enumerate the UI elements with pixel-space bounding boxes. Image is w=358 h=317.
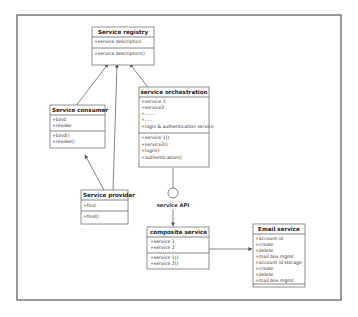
class-title: Service consumer xyxy=(52,107,108,113)
attribute: +mail box mgmt xyxy=(255,254,294,259)
attribute: +....... xyxy=(141,111,155,116)
class-service-provider: Service provider +find +find() xyxy=(81,190,135,224)
class-composite-service: composite service +service 1 +service 2 … xyxy=(147,227,209,269)
attribute: +bind xyxy=(52,117,66,122)
class-title: Service registry xyxy=(98,29,148,36)
uml-diagram-canvas: service API Service registry +service de… xyxy=(0,0,358,317)
attribute: +find xyxy=(83,203,96,208)
operation: +bind() xyxy=(52,133,70,138)
attribute: +revoke xyxy=(52,123,71,128)
operation: +service 2() xyxy=(150,261,178,266)
class-title: composite service xyxy=(150,229,207,236)
operation: +service 1() xyxy=(141,135,169,140)
attribute: +delete xyxy=(255,248,273,253)
class-title: Service provider xyxy=(83,192,135,199)
class-service-orchestration: service orchestration +service 1 +servic… xyxy=(139,87,214,167)
operation: +login() xyxy=(141,148,160,153)
attribute: +create xyxy=(255,266,274,271)
class-title: Email service xyxy=(258,226,300,232)
class-service-consumer: Service consumer +bind +revoke +bind() +… xyxy=(50,105,108,148)
interface-lollipop-icon xyxy=(168,188,178,198)
attribute: +mail box mgmt xyxy=(255,278,294,283)
operation: +service2() xyxy=(141,142,168,147)
attribute: +..... xyxy=(141,117,152,122)
attribute: +login & authentication service xyxy=(141,124,214,129)
operation: +service 1() xyxy=(150,255,178,260)
class-title: service orchestration xyxy=(140,89,207,95)
attribute: +service 1 xyxy=(141,99,166,104)
attribute: +delete xyxy=(255,272,273,277)
service-api-label: service API xyxy=(157,202,190,208)
attribute: +service 2 xyxy=(150,245,175,250)
attribute: +create xyxy=(255,242,274,247)
operation: +find() xyxy=(83,214,99,219)
attribute: +service2 xyxy=(141,105,164,110)
class-service-registry: Service registry +service description +s… xyxy=(92,27,154,65)
operation: +service description() xyxy=(94,51,145,56)
attribute: +service description xyxy=(94,39,141,44)
attribute: +service 1 xyxy=(150,239,175,244)
class-email-service: Email service +account id +create +delet… xyxy=(253,224,305,287)
operation: +authentication() xyxy=(141,155,182,160)
operation: +revoke() xyxy=(52,139,75,144)
attribute: +account id storage xyxy=(255,260,302,265)
attribute: +account id xyxy=(255,236,283,241)
